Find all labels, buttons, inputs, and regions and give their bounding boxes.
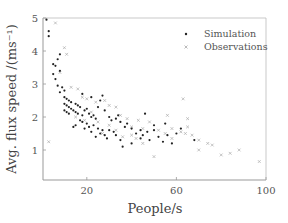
simulation-point <box>81 121 83 123</box>
observation-point <box>141 127 144 130</box>
observation-point <box>184 132 187 135</box>
simulation-point <box>122 146 124 148</box>
observation-point <box>137 119 140 122</box>
observation-point <box>126 117 129 120</box>
simulation-point <box>63 96 65 98</box>
observation-point <box>182 97 185 100</box>
observation-point <box>206 142 209 145</box>
simulation-point <box>66 104 68 106</box>
simulation-point <box>63 109 65 111</box>
observation-point <box>108 104 111 107</box>
simulation-point <box>97 127 99 129</box>
simulation-point <box>144 113 146 115</box>
simulation-point <box>104 134 106 136</box>
observation-point <box>171 137 174 140</box>
simulation-point <box>57 85 59 87</box>
legend: Simulation Observations <box>185 28 268 52</box>
simulation-point <box>63 103 65 105</box>
simulation-point <box>66 98 68 100</box>
simulation-point <box>79 119 81 121</box>
observation-point <box>63 46 66 49</box>
observation-point <box>164 132 167 135</box>
observation-point <box>121 135 124 138</box>
observation-point <box>74 116 77 119</box>
observation-point <box>119 114 122 117</box>
observation-point <box>238 149 241 152</box>
observation-point <box>103 99 106 102</box>
legend-cross-icon <box>185 46 188 49</box>
y-ticks: 12345 <box>32 13 46 156</box>
simulation-point <box>153 124 155 126</box>
simulation-point <box>48 30 50 32</box>
simulation-point <box>108 129 110 131</box>
observation-point <box>197 149 200 152</box>
simulation-point <box>99 99 101 101</box>
simulation-point <box>92 114 94 116</box>
simulation-point <box>99 132 101 134</box>
observation-point <box>166 114 169 117</box>
y-tick-label: 2 <box>32 112 38 123</box>
observation-point <box>101 132 104 135</box>
simulation-point <box>119 121 121 123</box>
series-simulation <box>45 19 195 148</box>
observation-point <box>179 130 182 133</box>
simulation-point <box>68 99 70 101</box>
simulation-point <box>131 142 133 144</box>
observation-point <box>153 155 156 158</box>
simulation-point <box>135 132 137 134</box>
observation-point <box>83 119 86 122</box>
simulation-point <box>157 136 159 138</box>
simulation-point <box>77 113 79 115</box>
y-tick-label: 1 <box>32 145 38 156</box>
simulation-point <box>108 116 110 118</box>
observation-point <box>97 121 100 124</box>
simulation-point <box>171 142 173 144</box>
simulation-point <box>61 86 63 88</box>
simulation-point <box>126 123 128 125</box>
simulation-point <box>59 53 61 55</box>
simulation-point <box>81 114 83 116</box>
simulation-point <box>117 114 119 116</box>
observation-point <box>47 140 50 143</box>
observation-point <box>90 111 93 114</box>
simulation-point <box>72 109 74 111</box>
simulation-point <box>166 134 168 136</box>
simulation-point <box>162 141 164 143</box>
simulation-point <box>63 90 65 92</box>
simulation-point <box>88 126 90 128</box>
simulation-point <box>101 129 103 131</box>
observation-point <box>81 96 84 99</box>
y-tick-label: 5 <box>32 13 38 24</box>
simulation-point <box>97 106 99 108</box>
simulation-point <box>54 65 56 67</box>
simulation-point <box>124 126 126 128</box>
simulation-point <box>68 113 70 115</box>
observation-point <box>65 53 68 56</box>
simulation-point <box>164 123 166 125</box>
scatter-chart: 12345 2060100 Simulation Observations Pe… <box>0 0 288 223</box>
simulation-point <box>90 96 92 98</box>
observation-point <box>220 154 223 157</box>
observation-point <box>94 101 97 104</box>
y-axis-label: Avg. flux speed /(ms⁻¹) <box>4 24 19 175</box>
simulation-point <box>81 93 83 95</box>
simulation-point <box>104 109 106 111</box>
simulation-point <box>115 134 117 136</box>
observation-point <box>171 127 174 130</box>
simulation-point <box>106 137 108 139</box>
x-axis-label: People/s <box>128 201 183 216</box>
simulation-point <box>119 139 121 141</box>
observation-point <box>191 134 194 137</box>
simulation-point <box>148 139 150 141</box>
simulation-point <box>153 129 155 131</box>
simulation-point <box>115 118 117 120</box>
simulation-point <box>79 106 81 108</box>
x-tick-label: 100 <box>256 185 275 196</box>
observation-point <box>157 129 160 132</box>
legend-dot-icon <box>185 33 187 35</box>
observation-point <box>148 121 151 124</box>
observation-point <box>54 22 57 25</box>
observation-point <box>186 126 189 129</box>
observation-point <box>229 152 232 155</box>
observation-point <box>141 142 144 145</box>
